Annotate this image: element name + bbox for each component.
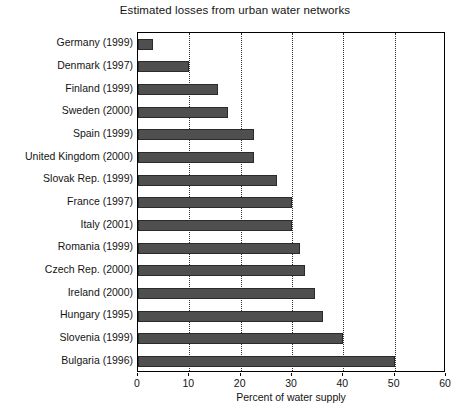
y-axis-label: Slovak Rep. (1999) bbox=[0, 173, 133, 184]
bar-slot bbox=[138, 260, 444, 283]
x-axis-ticks: 0102030405060 bbox=[137, 373, 445, 389]
x-tick-label-20: 20 bbox=[234, 377, 246, 389]
x-tick-mark-50 bbox=[394, 373, 395, 376]
x-tick-label-60: 60 bbox=[439, 377, 451, 389]
bar-slot bbox=[138, 56, 444, 79]
x-tick-mark-30 bbox=[291, 373, 292, 376]
bar-slot bbox=[138, 192, 444, 215]
bar-slot bbox=[138, 33, 444, 56]
chart-title: Estimated losses from urban water networ… bbox=[0, 4, 470, 16]
bar bbox=[138, 152, 254, 163]
y-axis-label: Denmark (1997) bbox=[0, 60, 133, 71]
x-tick-mark-20 bbox=[240, 373, 241, 376]
x-tick-mark-40 bbox=[342, 373, 343, 376]
x-tick-label-0: 0 bbox=[134, 377, 140, 389]
y-axis-label: Slovenia (1999) bbox=[0, 332, 133, 343]
plot-area bbox=[137, 32, 445, 372]
bar-slot bbox=[138, 146, 444, 169]
x-tick-label-30: 30 bbox=[285, 377, 297, 389]
bar bbox=[138, 288, 315, 299]
bar bbox=[138, 265, 305, 276]
bar-slot bbox=[138, 124, 444, 147]
x-tick-label-40: 40 bbox=[336, 377, 348, 389]
y-axis-label: United Kingdom (2000) bbox=[0, 151, 133, 162]
y-axis-label: Italy (2001) bbox=[0, 219, 133, 230]
y-axis-label: Hungary (1995) bbox=[0, 309, 133, 320]
x-tick-label-50: 50 bbox=[388, 377, 400, 389]
y-axis-label: Romania (1999) bbox=[0, 241, 133, 252]
bar bbox=[138, 84, 218, 95]
bar-slot bbox=[138, 305, 444, 328]
bar-slot bbox=[138, 214, 444, 237]
bar-chart-figure: Estimated losses from urban water networ… bbox=[0, 0, 470, 417]
x-tick-label-10: 10 bbox=[182, 377, 194, 389]
bar bbox=[138, 311, 323, 322]
bar bbox=[138, 129, 254, 140]
bar bbox=[138, 107, 228, 118]
bar-slot bbox=[138, 101, 444, 124]
bar-slot bbox=[138, 282, 444, 305]
x-axis-title: Percent of water supply bbox=[137, 391, 445, 403]
x-tick-mark-10 bbox=[188, 373, 189, 376]
x-tick-mark-0 bbox=[137, 373, 138, 376]
bars-layer bbox=[138, 33, 444, 371]
bar bbox=[138, 220, 292, 231]
bar bbox=[138, 39, 153, 50]
bar-slot bbox=[138, 78, 444, 101]
x-tick-mark-60 bbox=[445, 373, 446, 376]
bar bbox=[138, 356, 395, 367]
y-axis-label: Sweden (2000) bbox=[0, 105, 133, 116]
bar bbox=[138, 333, 343, 344]
y-axis-label: Bulgaria (1996) bbox=[0, 355, 133, 366]
bar-slot bbox=[138, 169, 444, 192]
y-axis-label: Czech Rep. (2000) bbox=[0, 264, 133, 275]
y-axis-label: Ireland (2000) bbox=[0, 287, 133, 298]
bar-slot bbox=[138, 328, 444, 351]
y-axis-label: France (1997) bbox=[0, 196, 133, 207]
bar bbox=[138, 175, 277, 186]
y-axis-label: Finland (1999) bbox=[0, 83, 133, 94]
bar bbox=[138, 243, 300, 254]
bar bbox=[138, 61, 189, 72]
y-axis-label: Germany (1999) bbox=[0, 37, 133, 48]
y-axis-label: Spain (1999) bbox=[0, 128, 133, 139]
bar-slot bbox=[138, 350, 444, 373]
y-axis-category-labels: Germany (1999)Denmark (1997)Finland (199… bbox=[0, 32, 133, 372]
bar bbox=[138, 197, 292, 208]
bar-slot bbox=[138, 237, 444, 260]
